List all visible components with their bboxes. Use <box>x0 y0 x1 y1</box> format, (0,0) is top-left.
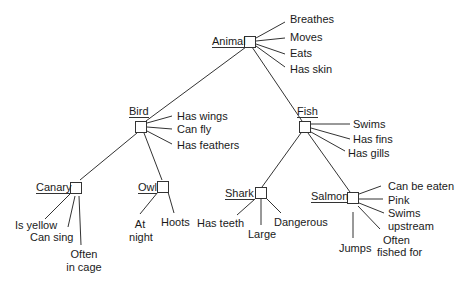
edge-canary-cage <box>79 196 81 245</box>
edge-fish-shark <box>262 133 301 187</box>
edge-canary-sing <box>68 196 75 227</box>
property-dangerous: Dangerous <box>274 216 328 228</box>
node-box-fish <box>299 121 311 133</box>
node-label-salmon: Salmon <box>311 190 348 203</box>
property-swims: Swims <box>353 118 385 130</box>
semantic-network-diagram: Animal Bird Fish Canary Owl Shark Salmon… <box>0 0 464 282</box>
property-can-be-eaten: Can be eaten <box>388 180 454 192</box>
node-box-salmon <box>347 192 359 204</box>
node-box-animal <box>244 36 256 48</box>
property-eats: Eats <box>290 47 312 59</box>
property-hoots: Hoots <box>161 216 190 228</box>
property-at: At <box>130 218 150 230</box>
property-fished-for: fished for <box>377 246 422 258</box>
property-often: Often <box>383 234 410 246</box>
node-label-animal: Animal <box>212 35 246 48</box>
property-night: night <box>127 231 155 243</box>
property-pink: Pink <box>388 194 409 206</box>
edge-shark-teeth <box>237 199 255 215</box>
property-can-fly: Can fly <box>177 123 211 135</box>
edge-canary-yellow <box>45 192 72 219</box>
node-label-owl: Owl <box>138 181 157 194</box>
edge-owl-night <box>140 192 158 214</box>
edge-salmon-fished <box>358 206 380 229</box>
edge-fish-hasgills <box>311 132 345 151</box>
property-has-fins: Has fins <box>353 133 393 145</box>
node-label-canary: Canary <box>36 181 71 194</box>
property-swims: Swims <box>388 207 420 219</box>
property-has-gills: Has gills <box>348 147 390 159</box>
edge-bird-hasfeathers <box>147 131 172 144</box>
property-upstream: upstream <box>388 220 434 232</box>
property-has-teeth: Has teeth <box>197 217 244 229</box>
edge-animal-breathes <box>256 22 285 38</box>
property-has-wings: Has wings <box>177 110 228 122</box>
edge-shark-dangerous <box>267 199 281 213</box>
edge-bird-owl <box>144 133 162 180</box>
node-box-bird <box>135 121 147 133</box>
edge-salmon-eaten <box>359 186 381 194</box>
property-has-feathers: Has feathers <box>177 139 239 151</box>
edge-owl-hoots <box>168 192 174 213</box>
node-box-shark <box>255 187 267 199</box>
property-large: Large <box>248 228 276 240</box>
edge-bird-canary <box>80 133 137 180</box>
property-jumps: Jumps <box>339 242 371 254</box>
node-box-owl <box>157 181 169 193</box>
node-label-shark: Shark <box>225 187 254 200</box>
property-has-skin: Has skin <box>290 63 332 75</box>
edge-animal-moves <box>256 38 285 41</box>
property-often: Often <box>69 248 99 260</box>
node-label-bird: Bird <box>129 105 149 118</box>
property-is-yellow: Is yellow <box>15 219 57 231</box>
property-breathes: Breathes <box>290 13 334 25</box>
node-label-fish: Fish <box>297 105 318 118</box>
property-moves: Moves <box>290 31 322 43</box>
edge-bird-canfly <box>147 127 172 129</box>
edge-fish-hasfins <box>311 128 350 139</box>
property-can-sing: Can sing <box>30 231 73 243</box>
node-box-canary <box>70 182 82 194</box>
property-in-cage: in cage <box>64 261 104 273</box>
